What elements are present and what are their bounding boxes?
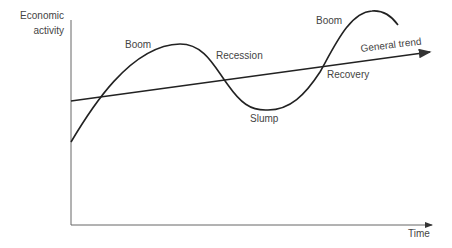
y-axis-label: Economic (20, 10, 64, 21)
label-general-trend: General trend (360, 36, 422, 54)
x-axis-label: Time (408, 228, 430, 239)
label-recovery: Recovery (327, 69, 369, 80)
label-slump: Slump (250, 113, 279, 124)
business-cycle-diagram: Economic activity Time Boom Recession Sl… (0, 0, 452, 248)
y-axis-label-line2: activity (33, 25, 64, 36)
label-boom-1: Boom (125, 39, 151, 50)
label-boom-2: Boom (316, 15, 342, 26)
label-recession: Recession (216, 50, 263, 61)
